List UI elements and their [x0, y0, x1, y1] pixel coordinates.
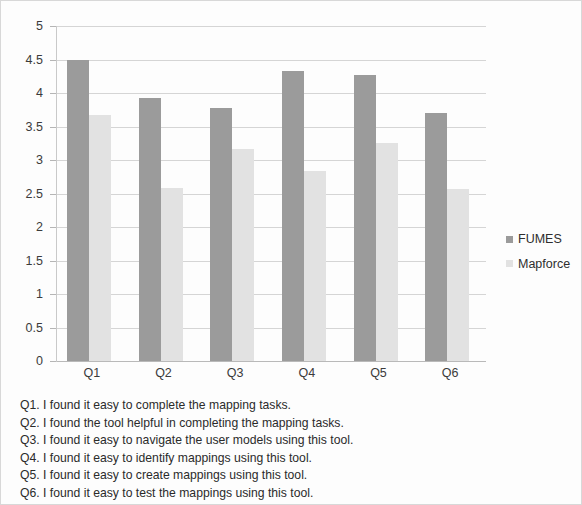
bar-fumes-q6[interactable] — [425, 113, 447, 361]
x-axis-tick-label-q1: Q1 — [56, 367, 128, 380]
chart-legend: FUMESMapforce — [506, 233, 580, 282]
bar-fumes-q4[interactable] — [282, 71, 304, 361]
bar-group-q5 — [354, 26, 398, 361]
bar-group-q4 — [282, 26, 326, 361]
bar-group-q6 — [425, 26, 469, 361]
x-axis-tick-label-q2: Q2 — [128, 367, 200, 380]
bar-mapforce-q4[interactable] — [304, 171, 326, 361]
legend-label: FUMES — [518, 233, 562, 246]
y-axis-tick-label: 0 — [9, 355, 43, 368]
bar-mapforce-q6[interactable] — [447, 189, 469, 361]
legend-swatch-icon — [506, 260, 513, 267]
bar-fumes-q2[interactable] — [139, 98, 161, 361]
y-axis-tick-label: 2 — [9, 221, 43, 234]
caption-line-3: Q3. I found it easy to navigate the user… — [20, 432, 565, 450]
gridline — [56, 361, 486, 362]
x-axis-tick-label-q4: Q4 — [271, 367, 343, 380]
bar-fumes-q1[interactable] — [67, 60, 89, 362]
caption-line-5: Q5. I found it easy to create mappings u… — [20, 467, 565, 485]
chart-caption: Q1. I found it easy to complete the mapp… — [20, 397, 565, 502]
y-axis-tick-label: 3.5 — [9, 121, 43, 134]
x-axis-tick-label-q3: Q3 — [199, 367, 271, 380]
legend-item-mapforce[interactable]: Mapforce — [506, 258, 580, 271]
y-axis-tick-label: 3 — [9, 154, 43, 167]
caption-line-6: Q6. I found it easy to test the mappings… — [20, 485, 565, 503]
bar-group-q3 — [210, 26, 254, 361]
caption-line-4: Q4. I found it easy to identify mappings… — [20, 450, 565, 468]
legend-item-fumes[interactable]: FUMES — [506, 233, 580, 246]
y-axis-tick-label: 0.5 — [9, 322, 43, 335]
bar-series-container — [56, 26, 486, 361]
bar-fumes-q5[interactable] — [354, 75, 376, 361]
caption-line-1: Q1. I found it easy to complete the mapp… — [20, 397, 565, 415]
legend-swatch-icon — [506, 236, 513, 243]
x-axis-tick-label-q6: Q6 — [414, 367, 486, 380]
y-axis-tick-label: 4.5 — [9, 54, 43, 67]
bar-mapforce-q5[interactable] — [376, 143, 398, 361]
y-axis-tick-label: 4 — [9, 87, 43, 100]
bar-mapforce-q1[interactable] — [89, 115, 111, 361]
x-axis-tick-label-q5: Q5 — [343, 367, 415, 380]
y-axis-tick-label: 1.5 — [9, 255, 43, 268]
y-axis-tick-label: 1 — [9, 288, 43, 301]
y-axis-tick-label: 2.5 — [9, 188, 43, 201]
bar-fumes-q3[interactable] — [210, 108, 232, 361]
caption-line-2: Q2. I found the tool helpful in completi… — [20, 415, 565, 433]
bar-mapforce-q2[interactable] — [161, 188, 183, 361]
y-axis-tick-mark — [50, 361, 56, 362]
legend-label: Mapforce — [518, 258, 570, 271]
bar-group-q2 — [139, 26, 183, 361]
bar-group-q1 — [67, 26, 111, 361]
bar-mapforce-q3[interactable] — [232, 149, 254, 361]
bar-chart: 54.543.532.521.510.50 Q1Q2Q3Q4Q5Q6 FUMES… — [1, 1, 582, 386]
y-axis-tick-label: 5 — [9, 20, 43, 33]
figure-container: 54.543.532.521.510.50 Q1Q2Q3Q4Q5Q6 FUMES… — [0, 0, 582, 505]
